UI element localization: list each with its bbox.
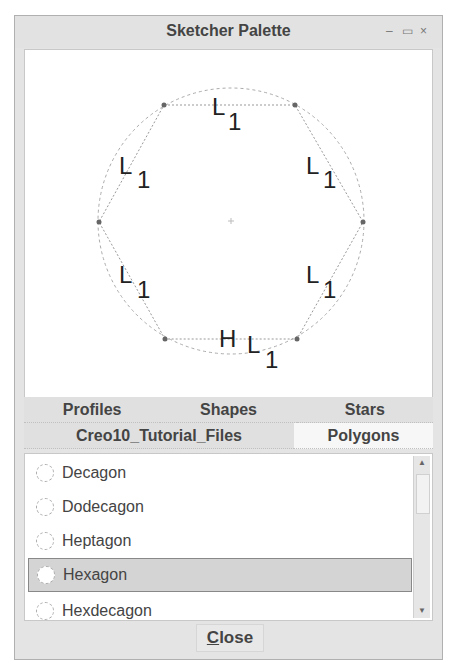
radio-icon xyxy=(36,602,54,620)
list-item-hexdecagon[interactable]: Hexdecagon xyxy=(28,594,412,621)
minimize-icon[interactable]: – xyxy=(386,24,393,38)
sketcher-palette-window: Sketcher Palette – ▭ × L1 L1 L1 L1 L1 HL… xyxy=(14,15,443,660)
svg-text:1: 1 xyxy=(265,346,278,373)
hexagon-preview-graphic: L1 L1 L1 L1 L1 HL1 xyxy=(25,50,432,398)
close-label: lose xyxy=(219,628,253,647)
radio-icon xyxy=(36,532,54,550)
list-item-decagon[interactable]: Decagon xyxy=(28,456,412,490)
svg-text:L: L xyxy=(306,261,319,288)
list-item-hexagon[interactable]: Hexagon xyxy=(28,558,412,592)
svg-text:1: 1 xyxy=(137,276,150,303)
scroll-thumb[interactable] xyxy=(416,474,430,514)
svg-text:L: L xyxy=(119,261,132,288)
svg-text:1: 1 xyxy=(323,276,336,303)
svg-text:H: H xyxy=(219,325,236,352)
scroll-down-icon[interactable]: ▼ xyxy=(414,604,430,618)
svg-text:1: 1 xyxy=(137,166,150,193)
window-title: Sketcher Palette xyxy=(15,22,442,40)
list-item-dodecagon[interactable]: Dodecagon xyxy=(28,490,412,524)
shape-list: Decagon Dodecagon Heptagon Hexagon Hexde… xyxy=(24,453,433,621)
shape-preview-canvas: L1 L1 L1 L1 L1 HL1 xyxy=(24,49,433,399)
svg-text:1: 1 xyxy=(323,166,336,193)
radio-icon xyxy=(37,566,55,584)
close-button[interactable]: Close xyxy=(196,624,264,652)
close-icon[interactable]: × xyxy=(420,24,427,38)
title-bar[interactable]: Sketcher Palette – ▭ × xyxy=(15,16,442,48)
svg-text:L: L xyxy=(119,152,132,179)
tab-profiles[interactable]: Profiles xyxy=(24,397,160,423)
radio-icon xyxy=(36,498,54,516)
maximize-icon[interactable]: ▭ xyxy=(402,24,413,38)
tab-creo10-tutorial-files[interactable]: Creo10_Tutorial_Files xyxy=(24,423,294,449)
palette-tabs: Profiles Shapes Stars Creo10_Tutorial_Fi… xyxy=(24,397,433,451)
svg-text:L: L xyxy=(247,331,260,358)
tab-shapes[interactable]: Shapes xyxy=(160,397,296,423)
list-item-heptagon[interactable]: Heptagon xyxy=(28,524,412,558)
tab-polygons[interactable]: Polygons xyxy=(294,423,433,449)
list-scrollbar[interactable]: ▲ ▼ xyxy=(413,456,430,618)
tab-stars[interactable]: Stars xyxy=(297,397,433,423)
close-mnemonic: C xyxy=(207,628,219,647)
scroll-up-icon[interactable]: ▲ xyxy=(414,456,430,470)
radio-icon xyxy=(36,464,54,482)
svg-text:L: L xyxy=(212,93,225,120)
svg-text:1: 1 xyxy=(228,108,241,135)
svg-text:L: L xyxy=(306,152,319,179)
